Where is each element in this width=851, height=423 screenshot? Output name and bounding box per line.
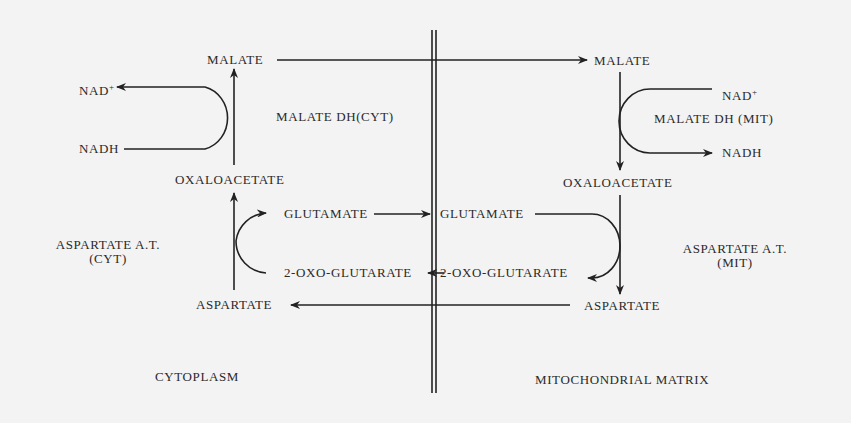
cyt-malate-label: MALATE [207, 53, 263, 67]
mit-nad-sup: + [752, 87, 758, 97]
mit-ast-line1: ASPARTATE A.T. [665, 242, 805, 256]
malate-aspartate-shuttle-arrows [0, 0, 851, 423]
cyt-aspartate-label: ASPARTATE [196, 298, 272, 312]
cyt-ast-line1: ASPARTATE A.T. [38, 238, 178, 252]
mit-aspartate-at-label: ASPARTATE A.T. (MIT) [665, 242, 805, 270]
cyt-nad-text: NAD [79, 83, 109, 98]
cyt-glutamate-label: GLUTAMATE [284, 207, 368, 221]
mit-glutamate-label: GLUTAMATE [440, 207, 524, 221]
mit-nadh-label: NADH [722, 146, 762, 160]
mit-malate-label: MALATE [594, 54, 650, 68]
mit-oxoglutarate-label: 2-OXO-GLUTARATE [440, 266, 568, 280]
mit-nad-text: NAD [722, 88, 752, 103]
mitochondrial-matrix-compartment-label: MITOCHONDRIAL MATRIX [535, 373, 709, 387]
cyt-nad-label: NAD+ [79, 80, 115, 98]
mit-oxaloacetate-label: OXALOACETATE [563, 176, 672, 190]
cyt-nadh-label: NADH [79, 142, 119, 156]
cyt-oxoglutarate-glutamate-curve [236, 213, 266, 273]
mit-nad-label: NAD+ [722, 85, 758, 103]
cyt-nad-sup: + [109, 82, 115, 92]
cytoplasm-compartment-label: CYTOPLASM [155, 370, 239, 384]
cyt-oxoglutarate-label: 2-OXO-GLUTARATE [284, 266, 412, 280]
mit-aspartate-label: ASPARTATE [584, 299, 660, 313]
cyt-oxaloacetate-label: OXALOACETATE [175, 173, 284, 187]
cyt-nadh-nad-curve [117, 87, 228, 149]
mit-ast-line2: (MIT) [665, 256, 805, 270]
cyt-malate-dh-label: MALATE DH(CYT) [276, 110, 394, 124]
cyt-aspartate-at-label: ASPARTATE A.T. (CYT) [38, 238, 178, 266]
mit-malate-dh-label: MALATE DH (MIT) [654, 112, 773, 126]
cyt-ast-line2: (CYT) [38, 252, 178, 266]
